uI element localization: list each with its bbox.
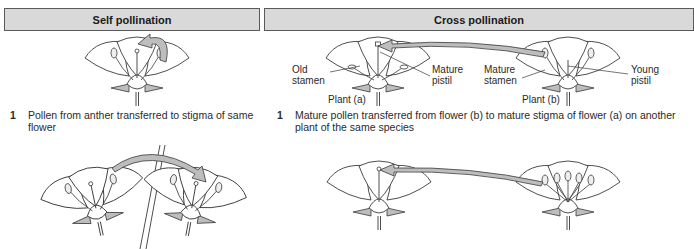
label-young-pistil: Young pistil [631, 64, 659, 86]
step-text: Pollen from anther transferred to stigma… [10, 109, 260, 133]
cross-flower-2b [516, 161, 620, 230]
self-flower-1 [85, 37, 189, 106]
label-mature-pistil: Mature pistil [432, 64, 463, 86]
step-number: 1 [277, 109, 283, 121]
label-old-stamen: Old stamen [292, 64, 325, 86]
cross-step-1-caption: 1 Mature pollen transferred from flower … [277, 109, 685, 133]
self-step-1-caption: 1 Pollen from anther transferred to stig… [10, 109, 260, 133]
label-mature-stamen: Mature stamen [484, 64, 517, 86]
step-text: Mature pollen transferred from flower (b… [277, 109, 685, 133]
label-plant-a: Plant (a) [328, 94, 366, 105]
label-plant-b: Plant (b) [522, 94, 560, 105]
step-number: 1 [10, 109, 16, 121]
